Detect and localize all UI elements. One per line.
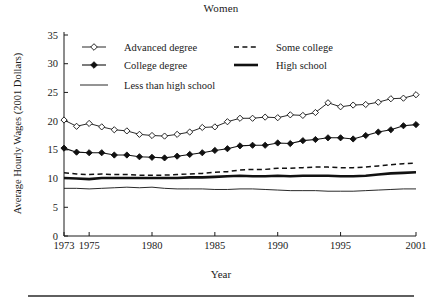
series-advanced-degree bbox=[61, 92, 419, 140]
y-tick-label: 20 bbox=[48, 116, 59, 127]
data-point bbox=[199, 124, 205, 130]
data-point bbox=[61, 117, 67, 123]
data-point bbox=[300, 138, 306, 144]
data-point bbox=[99, 150, 105, 156]
data-point bbox=[275, 140, 281, 146]
data-point bbox=[249, 142, 255, 148]
y-tick-label: 25 bbox=[48, 87, 59, 98]
data-point bbox=[149, 132, 155, 138]
data-point bbox=[161, 133, 167, 139]
y-tick-label: 10 bbox=[48, 173, 59, 184]
x-tick-label: 2001 bbox=[406, 240, 427, 251]
data-point bbox=[187, 129, 193, 135]
x-tick-label: 1990 bbox=[267, 240, 288, 251]
figure: Women Average Hourly Wages (2001 Dollars… bbox=[0, 0, 442, 304]
series-some-college bbox=[64, 163, 416, 175]
data-point bbox=[363, 101, 369, 107]
data-point bbox=[161, 155, 167, 161]
data-point bbox=[262, 114, 268, 120]
data-point bbox=[124, 128, 130, 134]
y-axis: 05101520253035 bbox=[48, 30, 69, 242]
data-point bbox=[187, 151, 193, 157]
y-tick-label: 30 bbox=[48, 58, 59, 69]
data-point bbox=[413, 92, 419, 98]
series-container bbox=[61, 92, 419, 192]
data-point bbox=[111, 152, 117, 158]
data-point bbox=[99, 124, 105, 130]
data-point bbox=[388, 96, 394, 102]
data-point bbox=[337, 104, 343, 110]
data-point bbox=[86, 150, 92, 156]
data-point bbox=[300, 112, 306, 118]
data-point bbox=[375, 129, 381, 135]
data-point bbox=[124, 152, 130, 158]
legend-item-less-than-high-school[interactable]: Less than high school bbox=[80, 80, 215, 91]
y-tick-label: 35 bbox=[48, 30, 59, 41]
data-point bbox=[199, 150, 205, 156]
data-point bbox=[174, 153, 180, 159]
data-point bbox=[136, 154, 142, 160]
legend-marker-filled-diamond bbox=[91, 62, 98, 69]
data-point bbox=[237, 143, 243, 149]
chart-legend: Advanced degreeSome collegeCollege degre… bbox=[80, 42, 333, 91]
data-point bbox=[287, 112, 293, 118]
legend-item-advanced-degree[interactable]: Advanced degree bbox=[82, 42, 198, 53]
data-point bbox=[325, 135, 331, 141]
data-point bbox=[400, 123, 406, 129]
data-point bbox=[73, 149, 79, 155]
y-tick-label: 5 bbox=[53, 202, 58, 213]
data-point bbox=[350, 102, 356, 108]
x-axis: 1973197519801985199019952001 bbox=[54, 232, 427, 251]
series-high-school bbox=[64, 172, 416, 179]
data-point bbox=[388, 127, 394, 133]
line-chart-plot: 05101520253035 1973197519801985199019952… bbox=[0, 0, 442, 304]
data-point bbox=[413, 121, 419, 127]
data-point bbox=[262, 142, 268, 148]
x-tick-label: 1995 bbox=[330, 240, 351, 251]
data-point bbox=[224, 119, 230, 125]
legend-marker-open-diamond bbox=[91, 44, 98, 51]
x-tick-label: 1980 bbox=[142, 240, 163, 251]
legend-label: Some college bbox=[276, 42, 333, 53]
legend-item-some-college[interactable]: Some college bbox=[234, 42, 333, 53]
legend-label: Less than high school bbox=[124, 80, 215, 91]
data-point bbox=[136, 131, 142, 137]
x-tick-label: 1975 bbox=[79, 240, 100, 251]
data-point bbox=[224, 146, 230, 152]
data-point bbox=[337, 135, 343, 141]
legend-label: Advanced degree bbox=[124, 42, 198, 53]
data-point bbox=[73, 123, 79, 129]
data-point bbox=[350, 136, 356, 142]
data-point bbox=[363, 132, 369, 138]
data-point bbox=[212, 147, 218, 153]
data-point bbox=[287, 140, 293, 146]
data-point bbox=[237, 115, 243, 121]
legend-item-college-degree[interactable]: College degree bbox=[82, 60, 188, 71]
data-point bbox=[400, 95, 406, 101]
x-tick-label: 1985 bbox=[204, 240, 225, 251]
data-point bbox=[212, 124, 218, 130]
data-point bbox=[86, 120, 92, 126]
data-point bbox=[275, 115, 281, 121]
series-less-than-high-school bbox=[64, 187, 416, 191]
data-point bbox=[375, 99, 381, 105]
data-point bbox=[174, 131, 180, 137]
y-tick-label: 15 bbox=[48, 144, 59, 155]
data-point bbox=[312, 136, 318, 142]
data-point bbox=[249, 115, 255, 121]
legend-item-high-school[interactable]: High school bbox=[234, 60, 327, 71]
data-point bbox=[111, 127, 117, 133]
data-point bbox=[149, 154, 155, 160]
legend-label: High school bbox=[276, 60, 327, 71]
legend-label: College degree bbox=[124, 60, 188, 71]
x-tick-label: 1973 bbox=[54, 240, 75, 251]
